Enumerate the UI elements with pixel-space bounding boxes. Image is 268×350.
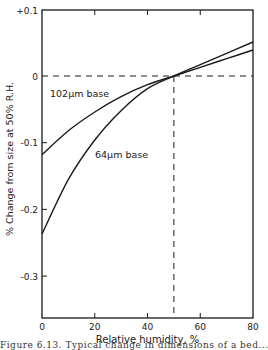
- figure-caption: Figure 6.13. Typical change in dimension…: [0, 340, 259, 350]
- y-tick-label: -0.1: [20, 138, 38, 148]
- y-axis-label: % Change from size at 50% R.H.: [4, 82, 15, 236]
- y-tick-label: +0.1: [16, 6, 38, 16]
- x-tick-label: 60: [195, 322, 207, 332]
- x-tick-label: 40: [142, 322, 154, 332]
- series-label-102um: 102μm base: [50, 88, 109, 99]
- series-label-64um: 64μm base: [95, 149, 148, 160]
- y-tick-label: -0.2: [20, 205, 38, 215]
- series-64um-curve: [42, 42, 253, 234]
- y-tick-label: -0.3: [20, 272, 38, 282]
- series-102um-curve: [42, 50, 253, 155]
- x-tick-label: 20: [89, 322, 101, 332]
- y-tick-label: 0: [32, 72, 38, 82]
- x-tick-label: 80: [247, 322, 259, 332]
- x-tick-label: 0: [39, 322, 45, 332]
